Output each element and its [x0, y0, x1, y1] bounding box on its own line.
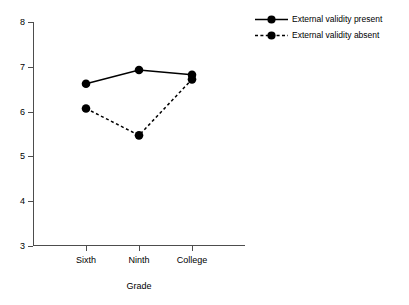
y-tick-mark: [28, 246, 33, 247]
x-tick-mark: [86, 246, 87, 251]
x-tick-label: Ninth: [128, 255, 149, 266]
plot-area: 345678 SixthNinthCollege: [33, 22, 245, 246]
series-plot: [33, 22, 245, 246]
y-tick-label: 6: [20, 107, 25, 116]
x-axis-title: Grade: [33, 281, 245, 292]
series-2: [82, 75, 197, 140]
y-tick-label: 8: [20, 18, 25, 27]
data-point-marker: [135, 131, 144, 140]
x-tick-mark: [139, 246, 140, 251]
series-1: [82, 66, 197, 88]
legend-item-present: External validity present: [255, 11, 382, 27]
x-tick-label: College: [177, 255, 208, 266]
x-tick-label: Sixth: [76, 255, 96, 266]
line-chart-figure: 345678 SixthNinthCollege Grade External …: [0, 0, 409, 305]
y-tick-label: 7: [20, 62, 25, 71]
y-tick-label: 5: [20, 152, 25, 161]
legend-label-present: External validity present: [292, 14, 382, 24]
data-point-marker: [188, 75, 197, 84]
data-point-marker: [82, 80, 91, 89]
data-point-marker: [82, 104, 91, 113]
series-line: [86, 79, 192, 135]
x-tick-mark: [192, 246, 193, 251]
y-tick-label: 4: [20, 197, 25, 206]
legend-key-dashed-line-icon: [255, 29, 288, 42]
y-tick-label: 3: [20, 242, 25, 251]
legend-key-solid-line-icon: [255, 13, 288, 26]
legend-label-absent: External validity absent: [292, 30, 379, 40]
data-point-marker: [135, 66, 144, 75]
chart-legend: External validity present External valid…: [255, 11, 382, 43]
legend-item-absent: External validity absent: [255, 27, 382, 43]
